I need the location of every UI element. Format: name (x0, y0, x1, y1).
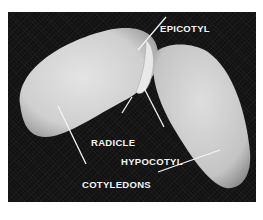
seed-illustration (8, 12, 256, 202)
label-radicle: RADICLE (91, 138, 135, 148)
label-hypocotyl: HYPOCOTYL (121, 157, 183, 167)
label-epicotyl: EPICOTYL (160, 24, 210, 34)
left-cotyledon (20, 28, 158, 137)
label-cotyledons: COTYLEDONS (82, 180, 151, 190)
seed-photo: EPICOTYL RADICLE HYPOCOTYL COTYLEDONS (8, 12, 256, 202)
